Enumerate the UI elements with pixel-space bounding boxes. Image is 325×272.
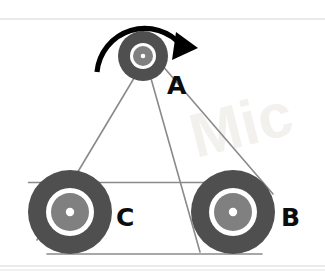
pulley-c-center xyxy=(66,208,74,216)
pulley-b-center xyxy=(229,208,237,216)
pulley-label-c: C xyxy=(116,203,134,232)
pulley-label-b: B xyxy=(281,203,300,232)
belt-drive-figure: Mic ACB xyxy=(0,0,325,272)
pulley-label-a: A xyxy=(167,71,187,100)
pulley-c xyxy=(28,170,112,254)
pulley-a xyxy=(118,31,168,81)
pulley-a-center xyxy=(141,54,146,59)
figure-canvas: Mic ACB xyxy=(0,0,325,272)
pulley-b xyxy=(191,170,275,254)
